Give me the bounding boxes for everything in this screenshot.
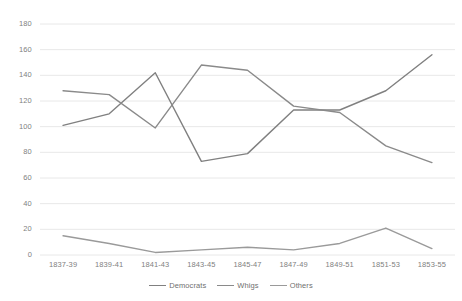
- x-axis-tick-label: 1845-47: [224, 260, 270, 269]
- y-axis-tick-label: 160: [6, 45, 32, 54]
- y-axis-tick-label: 100: [6, 122, 32, 131]
- series-line-whigs: [63, 65, 432, 163]
- x-axis-tick-label: 1841-43: [132, 260, 178, 269]
- legend-line-icon: [149, 285, 166, 286]
- chart-legend: DemocratsWhigsOthers: [0, 281, 462, 290]
- chart-plot-area: [0, 0, 462, 301]
- x-axis-tick-label: 1843-45: [178, 260, 224, 269]
- series-lines: [63, 55, 432, 253]
- y-axis-tick-label: 60: [6, 173, 32, 182]
- legend-line-icon: [217, 285, 234, 286]
- legend-item-whigs[interactable]: Whigs: [217, 281, 258, 290]
- legend-item-democrats[interactable]: Democrats: [149, 281, 206, 290]
- legend-item-label: Whigs: [237, 281, 258, 290]
- legend-item-label: Democrats: [169, 281, 206, 290]
- x-axis-tick-label: 1839-41: [86, 260, 132, 269]
- y-axis-tick-label: 120: [6, 96, 32, 105]
- legend-item-others[interactable]: Others: [270, 281, 313, 290]
- x-axis-tick-label: 1853-55: [409, 260, 455, 269]
- legend-item-label: Others: [290, 281, 313, 290]
- gridlines: [40, 24, 455, 255]
- x-axis-tick-label: 1847-49: [271, 260, 317, 269]
- line-chart: 020406080100120140160180 1837-391839-411…: [0, 0, 462, 301]
- x-axis-tick-label: 1851-53: [363, 260, 409, 269]
- legend-line-icon: [270, 285, 287, 286]
- y-axis-tick-label: 180: [6, 19, 32, 28]
- x-axis-tick-label: 1849-51: [317, 260, 363, 269]
- y-axis-tick-label: 80: [6, 147, 32, 156]
- y-axis-tick-label: 140: [6, 70, 32, 79]
- series-line-others: [63, 228, 432, 252]
- x-axis-tick-label: 1837-39: [40, 260, 86, 269]
- y-axis-tick-label: 40: [6, 199, 32, 208]
- y-axis-tick-label: 20: [6, 224, 32, 233]
- y-axis-tick-label: 0: [6, 250, 32, 259]
